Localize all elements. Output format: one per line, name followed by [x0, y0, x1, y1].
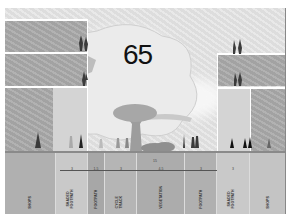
column-label: SHADED FOOTPATH [67, 190, 75, 209]
dimension-label: 1.5 [94, 167, 99, 171]
column-label: FOOTPATH [95, 190, 99, 209]
column-label: FOOTPATH [200, 190, 204, 209]
column-label: SHADED FOOTPATH [228, 190, 236, 209]
column-label: VEGETATION [160, 186, 164, 209]
column-label: SHOPS [267, 196, 271, 209]
section-diagram: 65 SHOPS SHADED FOOTPATH FOOTPATH CYCLE … [5, 8, 286, 214]
column-shops-left: SHOPS [5, 153, 56, 214]
label-strip: SHOPS SHADED FOOTPATH FOOTPATH CYCLE TRA… [5, 153, 286, 214]
column-shaded-footpath-left: SHADED FOOTPATH [56, 153, 88, 214]
column-shaded-footpath-right: SHADED FOOTPATH [217, 153, 250, 214]
column-cycle-track: CYCLE TRACK [105, 153, 137, 214]
dimension-label: 3 [200, 167, 202, 171]
dimension-label: 3 [232, 167, 234, 171]
figure-number: 65 [123, 39, 152, 71]
dimension-label: 4.5 [159, 167, 164, 171]
dimension-label: 3 [71, 167, 73, 171]
column-vegetation: VEGETATION [137, 153, 185, 214]
dimension-label: 3 [120, 167, 122, 171]
dimension-line [60, 170, 217, 171]
frame-edge [285, 8, 286, 214]
column-footpath-left: FOOTPATH [88, 153, 105, 214]
dimension-total: 15 [153, 159, 157, 163]
people-silhouettes [5, 8, 286, 153]
column-label: CYCLE TRACK [116, 196, 124, 209]
column-label: SHOPS [29, 196, 33, 209]
column-shops-right: SHOPS [250, 153, 286, 214]
column-footpath-right: FOOTPATH [185, 153, 217, 214]
